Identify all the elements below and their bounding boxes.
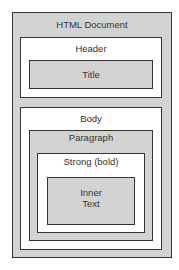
- title-box: Title: [29, 60, 153, 89]
- html-document-label: HTML Document: [13, 19, 171, 30]
- inner-text-box: Inner Text: [47, 177, 135, 225]
- inner-text-label-line1: Inner: [48, 187, 134, 198]
- paragraph-label: Paragraph: [30, 132, 152, 143]
- header-label: Header: [21, 43, 161, 54]
- strong-label: Strong (bold): [38, 156, 144, 167]
- inner-text-label-line2: Text: [48, 198, 134, 209]
- body-label: Body: [21, 113, 161, 124]
- title-label: Title: [30, 69, 152, 80]
